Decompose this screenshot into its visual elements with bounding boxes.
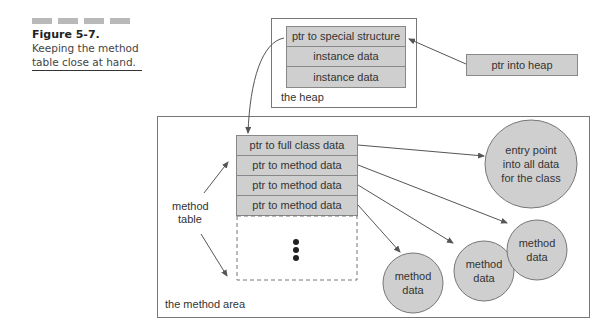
ellipsis-dot-icon (293, 239, 299, 245)
entry-point-text: entry point into all data for the class (485, 143, 577, 185)
method-data-text: method data (383, 269, 443, 297)
ellipsis-dot-icon (293, 247, 299, 253)
arrow-to-method-data-1 (358, 205, 400, 252)
arrow-label-to-table-bottom (201, 234, 227, 276)
arrow-to-entry-point (358, 145, 484, 156)
ellipsis-dot-icon (293, 255, 299, 261)
arrow-special-to-method-table (248, 38, 284, 133)
arrow-to-method-data-2 (358, 185, 453, 243)
arrow-heap-pointer (409, 39, 466, 64)
method-data-text: method data (454, 257, 514, 285)
arrow-label-to-table-top (204, 162, 228, 193)
method-data-text: method data (507, 236, 567, 264)
